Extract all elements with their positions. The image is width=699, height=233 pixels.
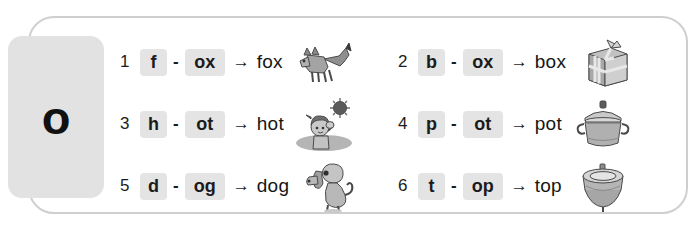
arrow-icon: → <box>503 176 535 196</box>
arrow-icon: → <box>225 52 257 72</box>
phonics-worksheet: o 1 f - ox → fox <box>0 0 699 233</box>
rime-chip[interactable]: ot <box>185 111 225 138</box>
spinning-top-illustration <box>572 158 634 214</box>
hot-sun-child-illustration <box>294 96 356 152</box>
arrow-icon: → <box>225 114 257 134</box>
dash-separator: - <box>445 52 463 72</box>
result-word: fox <box>257 51 283 73</box>
dash-separator: - <box>167 52 185 72</box>
result-word: top <box>535 175 562 197</box>
word-row: 2 b - ox → box <box>398 34 686 90</box>
row-number: 4 <box>398 114 418 134</box>
focus-letter-panel: o <box>8 36 104 198</box>
rime-chip[interactable]: ox <box>463 49 503 76</box>
word-row: 4 p - ot → pot <box>398 96 686 152</box>
rime-chip[interactable]: ot <box>463 111 503 138</box>
dog-illustration <box>299 158 361 214</box>
arrow-icon: → <box>503 114 535 134</box>
fox-illustration <box>293 34 355 90</box>
row-number: 3 <box>120 114 140 134</box>
onset-chip[interactable]: h <box>140 111 167 138</box>
word-row: 3 h - ot → hot <box>120 96 398 152</box>
arrow-icon: → <box>225 176 257 196</box>
result-word: dog <box>257 175 290 197</box>
rime-chip[interactable]: og <box>185 173 225 200</box>
onset-chip[interactable]: p <box>418 111 445 138</box>
onset-chip[interactable]: f <box>140 49 167 76</box>
dash-separator: - <box>167 114 185 134</box>
word-row: 1 f - ox → fox <box>120 34 398 90</box>
focus-letter: o <box>8 94 104 141</box>
dash-separator: - <box>445 176 463 196</box>
rime-chip[interactable]: ox <box>185 49 225 76</box>
row-number: 6 <box>398 176 418 196</box>
gift-box-illustration <box>576 34 638 90</box>
arrow-icon: → <box>503 52 535 72</box>
result-word: pot <box>535 113 562 135</box>
word-rows: 1 f - ox → fox <box>120 22 686 208</box>
onset-chip[interactable]: d <box>140 173 167 200</box>
cooking-pot-illustration <box>572 96 634 152</box>
onset-chip[interactable]: t <box>418 173 445 200</box>
row-number: 5 <box>120 176 140 196</box>
result-word: hot <box>257 113 284 135</box>
word-row: 6 t - op → top <box>398 158 686 214</box>
word-row: 5 d - og → dog <box>120 158 398 214</box>
result-word: box <box>535 51 567 73</box>
row-number: 2 <box>398 52 418 72</box>
rime-chip[interactable]: op <box>463 173 503 200</box>
row-number: 1 <box>120 52 140 72</box>
onset-chip[interactable]: b <box>418 49 445 76</box>
dash-separator: - <box>445 114 463 134</box>
dash-separator: - <box>167 176 185 196</box>
